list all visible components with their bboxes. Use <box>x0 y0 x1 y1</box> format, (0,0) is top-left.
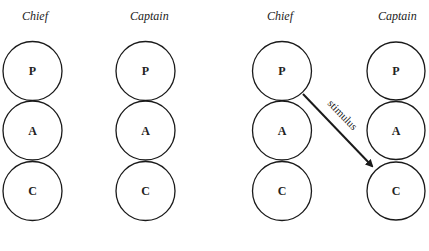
right-chief-column: Chief P A C <box>253 9 312 221</box>
svg-text:A: A <box>141 124 150 138</box>
svg-text:P: P <box>278 64 285 78</box>
left-chief-adult-state: A <box>3 101 62 160</box>
left-chief-title: Chief <box>22 9 50 23</box>
svg-text:A: A <box>392 124 401 138</box>
svg-text:P: P <box>142 64 149 78</box>
left-captain-title: Captain <box>130 9 169 23</box>
svg-text:C: C <box>141 184 150 198</box>
right-captain-adult-state: A <box>367 102 425 160</box>
left-captain-adult-state: A <box>116 101 175 160</box>
svg-text:C: C <box>278 184 287 198</box>
stimulus-arrow: stimulus <box>303 94 372 166</box>
left-captain-column: Captain P A C <box>116 9 175 221</box>
svg-text:P: P <box>29 64 36 78</box>
svg-text:A: A <box>278 124 287 138</box>
right-chief-child-state: C <box>253 162 312 221</box>
svg-text:A: A <box>28 124 37 138</box>
right-captain-child-state: C <box>367 162 425 220</box>
right-chief-title: Chief <box>267 9 295 23</box>
svg-text:P: P <box>392 64 399 78</box>
left-captain-parent-state: P <box>116 42 175 101</box>
right-chief-adult-state: A <box>253 101 312 160</box>
svg-text:C: C <box>392 184 401 198</box>
left-chief-parent-state: P <box>3 42 62 101</box>
right-captain-title: Captain <box>378 9 417 23</box>
right-captain-column: Captain P A C <box>367 9 425 220</box>
right-captain-parent-state: P <box>367 42 425 100</box>
left-chief-column: Chief P A C <box>3 9 62 221</box>
left-chief-child-state: C <box>3 162 62 221</box>
stimulus-label: stimulus <box>326 97 361 132</box>
right-chief-parent-state: P <box>253 42 312 101</box>
left-captain-child-state: C <box>116 162 175 221</box>
ego-state-diagram: Chief P A C Captain P A C Chief <box>0 0 429 251</box>
svg-text:C: C <box>28 184 37 198</box>
